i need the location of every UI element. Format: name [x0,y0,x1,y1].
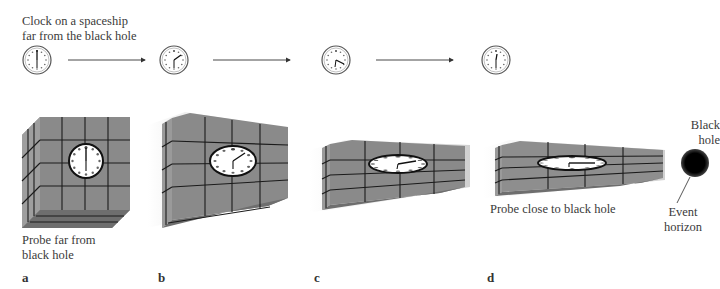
caption-line-1: Event [658,205,708,220]
probe-far-caption: Probe far from black hole [22,233,96,263]
event-horizon-caption: Event horizon [658,205,708,235]
spaceship-clock-c [322,46,350,74]
probe-b [148,112,288,228]
event-horizon-pointer [677,177,690,203]
caption-line-1: Black [680,118,720,133]
caption-line-2: black hole [22,248,96,263]
spaceship-clock-b [160,46,188,74]
black-hole [681,149,709,177]
panel-letter-d: d [487,270,494,286]
spaceship-clock-d [482,46,510,74]
probe-a [22,117,130,228]
spaceship-clock-caption: Clock on a spaceship far from the black … [22,14,137,44]
probe-d [483,140,665,198]
panel-letter-a: a [22,270,29,286]
caption-line-2: hole [680,133,720,148]
caption-line-2: horizon [658,220,708,235]
probe-close-caption: Probe close to black hole [490,202,616,217]
caption-line-1: Clock on a spaceship [22,14,137,29]
panel-letter-c: c [314,270,320,286]
caption-line-1: Probe far from [22,233,96,248]
panel-letter-b: b [158,270,165,286]
black-hole-caption: Black hole [680,118,720,148]
probe-c [310,140,470,212]
spaceship-clock-a [23,46,51,74]
caption-line-2: far from the black hole [22,29,137,44]
